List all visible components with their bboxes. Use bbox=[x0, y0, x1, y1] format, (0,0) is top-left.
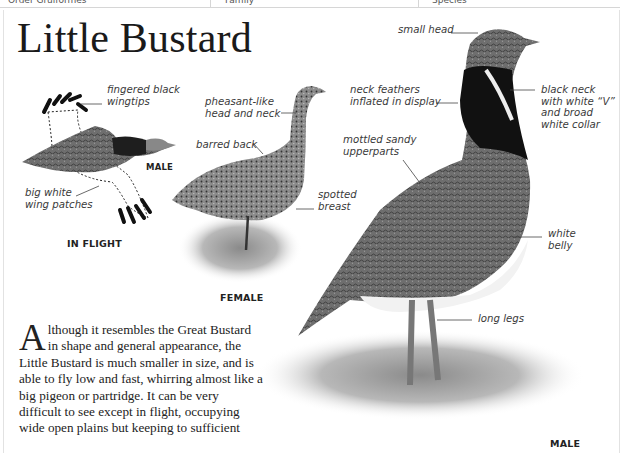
label-barred-back: barred back bbox=[196, 139, 257, 151]
flying-sex-label: MALE bbox=[146, 162, 173, 172]
caption-female: FEMALE bbox=[220, 292, 264, 303]
caption-male: MALE bbox=[550, 438, 580, 449]
label-fingered-wingtips: fingered black wingtips bbox=[107, 84, 180, 107]
label-white-belly: white belly bbox=[548, 228, 576, 251]
label-black-neck: black neck with white “V” and broad whit… bbox=[541, 84, 615, 130]
label-spotted-breast: spotted breast bbox=[318, 189, 357, 212]
label-wing-patches: big white wing patches bbox=[25, 187, 93, 210]
label-mottled-upperparts: mottled sandy upperparts bbox=[343, 134, 416, 157]
caption-in-flight: IN FLIGHT bbox=[67, 238, 122, 249]
description-paragraph: Although it resembles the Great Bustard … bbox=[19, 322, 264, 437]
label-neck-feathers: neck feathers inflated in display bbox=[350, 84, 441, 107]
label-long-legs: long legs bbox=[478, 313, 524, 325]
description-text: lthough it resembles the Great Bustard i… bbox=[19, 322, 263, 435]
label-small-head: small head bbox=[398, 24, 454, 36]
label-pheasant-head: pheasant-like head and neck bbox=[205, 96, 280, 119]
drop-cap: A bbox=[19, 323, 46, 352]
